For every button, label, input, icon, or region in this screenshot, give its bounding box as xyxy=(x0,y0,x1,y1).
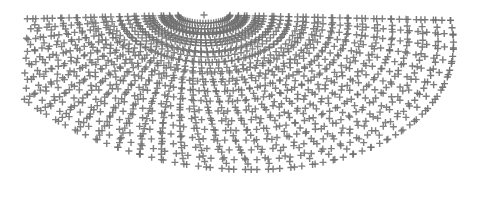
figure-canvas xyxy=(0,0,493,218)
scatter-plot xyxy=(0,0,493,218)
